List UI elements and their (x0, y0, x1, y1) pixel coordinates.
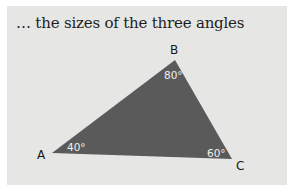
triangle-diagram: B A C 80° 40° 60° (0, 0, 292, 191)
angle-label-b: 80° (164, 69, 183, 81)
vertex-label-c: C (236, 159, 244, 173)
vertex-label-b: B (170, 43, 178, 57)
angle-label-a: 40° (67, 141, 86, 153)
angle-label-c: 60° (207, 147, 226, 159)
vertex-label-a: A (37, 148, 46, 162)
